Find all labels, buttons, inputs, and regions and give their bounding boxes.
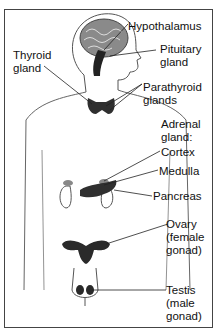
label-ovary-line1: Ovary bbox=[166, 218, 197, 231]
label-parathyroid-line1: Parathyroid bbox=[143, 81, 202, 94]
uterus-ovary-icon bbox=[62, 240, 110, 264]
leader-lines bbox=[44, 24, 168, 290]
label-ovary-line2: (female bbox=[166, 231, 204, 244]
label-testis-line1: Testis bbox=[166, 284, 195, 297]
label-thyroid-line1: Thyroid bbox=[13, 49, 51, 62]
label-testis-line2: (male bbox=[166, 297, 195, 310]
label-adrenal-line1: Adrenal bbox=[161, 118, 201, 131]
testis-left-icon bbox=[76, 285, 84, 295]
thyroid-icon bbox=[87, 98, 114, 114]
label-testis-line3: gonad) bbox=[166, 310, 202, 323]
label-adrenal-line2: gland: bbox=[161, 131, 192, 144]
pancreas-icon bbox=[80, 180, 116, 197]
label-pancreas: Pancreas bbox=[153, 190, 202, 203]
adrenal-left-icon bbox=[63, 180, 73, 186]
label-medulla: Medulla bbox=[159, 165, 199, 178]
label-ovary-line3: gonad) bbox=[166, 244, 202, 257]
label-hypothalamus: Hypothalamus bbox=[128, 20, 202, 33]
label-thyroid-line2: gland bbox=[13, 62, 41, 75]
scrotum-outline bbox=[72, 268, 98, 298]
label-pituitary-line1: Pituitary bbox=[160, 43, 202, 56]
kidney-left-icon bbox=[60, 186, 71, 208]
label-pituitary-line2: gland bbox=[160, 56, 188, 69]
label-cortex: Cortex bbox=[161, 146, 195, 159]
label-parathyroid-line2: glands bbox=[143, 94, 177, 107]
